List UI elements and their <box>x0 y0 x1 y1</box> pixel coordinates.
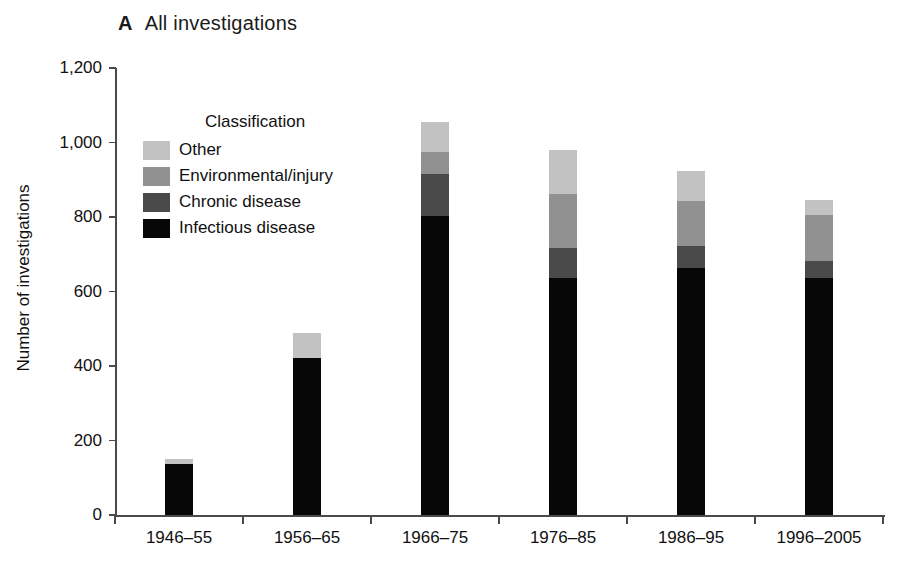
legend-swatch-icon <box>143 219 170 238</box>
x-axis-tick <box>754 516 756 524</box>
x-axis-tick-label: 1946–55 <box>115 528 243 548</box>
bar-segment <box>421 216 449 515</box>
legend-swatch-icon <box>143 193 170 212</box>
x-axis-tick-label: 1976–85 <box>499 528 627 548</box>
bar-1976-85 <box>549 150 577 515</box>
bar-segment <box>293 358 321 515</box>
x-axis-tick <box>242 516 244 524</box>
legend-item-label: Other <box>179 140 222 160</box>
x-axis-tick <box>498 516 500 524</box>
bar-1956-65 <box>293 333 321 515</box>
x-axis-tick-label: 1956–65 <box>243 528 371 548</box>
x-axis-tick <box>114 516 116 524</box>
panel-letter: A <box>118 12 133 34</box>
bar-1966-75 <box>421 122 449 515</box>
y-axis-tick-label: 400 <box>40 356 102 376</box>
panel-title-text: All investigations <box>145 12 298 34</box>
legend-swatch-icon <box>143 141 170 160</box>
legend-item: Environmental/injury <box>143 164 393 188</box>
legend-item: Other <box>143 138 393 162</box>
legend-item: Chronic disease <box>143 190 393 214</box>
x-axis-tick-label: 1966–75 <box>371 528 499 548</box>
bar-segment <box>677 246 705 268</box>
y-axis-tick-label: 600 <box>40 282 102 302</box>
legend-item: Infectious disease <box>143 216 393 240</box>
bar-segment <box>549 248 577 279</box>
x-axis-line <box>115 515 885 517</box>
bar-segment <box>165 459 193 464</box>
bar-segment <box>677 171 705 201</box>
y-axis-labels: 02004006008001,0001,200 <box>34 0 102 578</box>
bar-segment <box>421 122 449 152</box>
bar-1996-2005 <box>805 200 833 515</box>
x-axis-tick-label: 1986–95 <box>627 528 755 548</box>
y-axis-tick-label: 0 <box>40 505 102 525</box>
legend-item-label: Infectious disease <box>179 218 315 238</box>
page-title: AAll investigations <box>118 12 297 35</box>
y-axis-title: Number of investigations <box>14 78 34 478</box>
bar-segment <box>549 278 577 515</box>
legend-item-label: Environmental/injury <box>179 166 333 186</box>
bar-segment <box>677 268 705 515</box>
bar-segment <box>165 464 193 515</box>
legend-title: Classification <box>205 112 393 132</box>
legend-item-label: Chronic disease <box>179 192 301 212</box>
y-axis-tick-label: 200 <box>40 431 102 451</box>
x-axis-tick <box>882 516 884 524</box>
bar-1946-55 <box>165 459 193 515</box>
bar-segment <box>805 278 833 515</box>
bar-segment <box>805 215 833 260</box>
bar-segment <box>421 152 449 174</box>
x-axis-tick <box>626 516 628 524</box>
y-axis-tick-label: 800 <box>40 207 102 227</box>
bar-segment <box>421 174 449 216</box>
legend-swatch-icon <box>143 167 170 186</box>
x-axis-tick <box>370 516 372 524</box>
bar-segment <box>677 201 705 246</box>
legend-items: OtherEnvironmental/injuryChronic disease… <box>143 138 393 240</box>
bar-segment <box>805 261 833 278</box>
y-axis-tick-label: 1,000 <box>40 133 102 153</box>
bar-segment <box>805 200 833 215</box>
bar-segment <box>549 194 577 248</box>
bar-segment <box>549 150 577 194</box>
y-axis-tick-label: 1,200 <box>40 58 102 78</box>
bar-segment <box>293 333 321 358</box>
chart-figure: AAll investigations Number of investigat… <box>0 0 898 578</box>
legend: Classification OtherEnvironmental/injury… <box>143 112 393 242</box>
bar-1986-95 <box>677 171 705 515</box>
x-axis-tick-label: 1996–2005 <box>755 528 883 548</box>
